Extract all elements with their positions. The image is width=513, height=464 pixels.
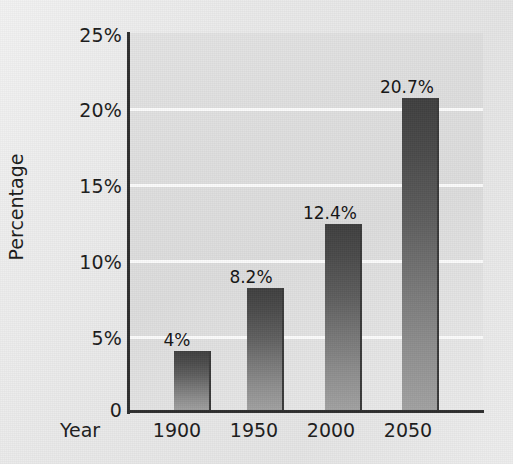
y-tick-25: 25% [79,24,122,46]
x-axis-line [127,410,484,413]
x-axis-title: Year [35,419,125,441]
y-axis-line [127,32,130,414]
y-tick-20: 20% [79,99,122,121]
value-label-1900: 4% [147,330,207,350]
bar-1900 [174,351,211,412]
bar-2050 [402,98,439,412]
bar-2000 [325,224,362,412]
bar-1950 [247,288,284,412]
chart-figure: 25% 20% 15% 10% 5% 0 Percentage Year 190… [0,0,513,464]
y-tick-5: 5% [91,327,122,349]
y-tick-0: 0 [110,399,122,421]
y-tick-10: 10% [79,251,122,273]
value-label-1950: 8.2% [216,267,286,287]
y-tick-15: 15% [79,175,122,197]
value-label-2000: 12.4% [290,203,370,223]
value-label-2050: 20.7% [367,77,447,97]
x-tick-2050: 2050 [363,419,453,441]
y-axis-title: Percentage [5,127,27,287]
